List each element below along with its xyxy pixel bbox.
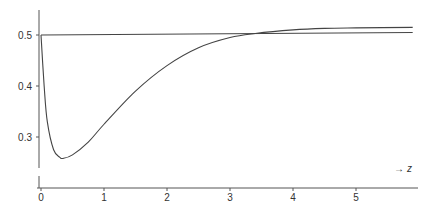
y-tick-label: 0.5 [18, 30, 32, 41]
x-tick-label: 1 [101, 192, 107, 203]
x-tick-label: 2 [164, 192, 170, 203]
y-tick-label: 0.3 [18, 132, 32, 143]
y-ticks: 0.30.40.5 [18, 30, 39, 143]
reference-line [41, 32, 413, 35]
x-ticks: 012345 [38, 188, 359, 203]
x-tick-label: 0 [38, 192, 44, 203]
x-axis-label: → z [394, 163, 412, 174]
x-tick-label: 4 [290, 192, 296, 203]
series-group [41, 27, 413, 158]
curve-line [41, 27, 413, 158]
x-tick-label: 5 [353, 192, 359, 203]
y-tick-label: 0.4 [18, 81, 32, 92]
chart: 0.30.40.5 012345 → z [0, 0, 435, 210]
axes [37, 10, 418, 188]
x-tick-label: 3 [227, 192, 233, 203]
